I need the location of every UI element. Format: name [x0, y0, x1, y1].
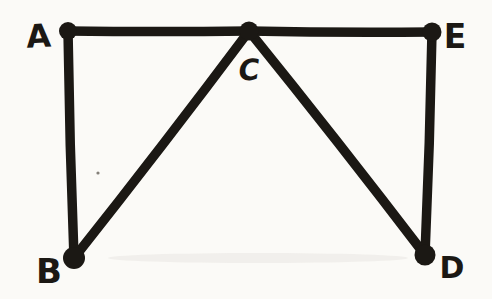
vertex-A-dot	[59, 22, 77, 40]
scan-smudge	[108, 253, 408, 263]
ink-speck	[96, 171, 99, 174]
edge-C-D	[249, 31, 425, 255]
vertex-C-label: C	[237, 52, 261, 87]
vertex-C-dot	[240, 22, 259, 41]
vertex-E-dot	[423, 23, 442, 42]
edge-A-C	[68, 31, 249, 32]
edge-C-E	[249, 31, 432, 32]
scanned-figure-page: ABCDE	[0, 0, 492, 299]
vertex-B-label: B	[36, 251, 62, 291]
vertex-E-label: E	[444, 17, 467, 56]
edge-B-C	[74, 31, 249, 258]
vertex-A-label: A	[25, 16, 52, 55]
graph-figure: ABCDE	[0, 0, 492, 299]
vertex-B-dot	[63, 247, 85, 269]
edge-E-D	[425, 32, 432, 255]
edge-A-B	[68, 31, 74, 258]
vertex-D-label: D	[440, 250, 465, 285]
vertex-D-dot	[415, 245, 436, 266]
